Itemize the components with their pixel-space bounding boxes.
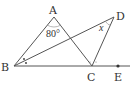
angle-mark-B2 [25,62,27,64]
angle-mark-B1 [23,58,25,60]
label-D: D [116,10,125,23]
label-B: B [1,61,9,74]
angle-label-A: 80° [46,28,60,39]
angle-mark-C2 [96,62,97,63]
point-E-dot [116,64,119,67]
geometry-diagram: A B C D E 80° x [0,0,140,89]
label-E: E [114,71,122,84]
label-C: C [87,71,95,84]
angle-arc-A [47,25,61,27]
angle-label-D: x [98,22,104,33]
angle-mark-C1 [90,62,91,63]
label-A: A [48,4,58,17]
segment-AC [54,17,92,66]
angle-arc-D [106,22,110,25]
segment-AB [14,17,54,66]
